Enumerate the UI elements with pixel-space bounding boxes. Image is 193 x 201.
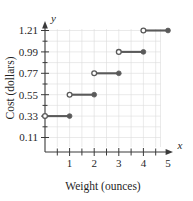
- step-open-endpoint: [92, 71, 97, 76]
- x-tick-label: 1: [67, 157, 73, 169]
- grid-lines: [45, 29, 161, 147]
- step-open-endpoint: [67, 92, 72, 97]
- y-tick-labels: 0.11 0.33 0.55 0.77 0.99 1.21: [19, 24, 39, 143]
- x-axis-variable-name: x: [177, 139, 183, 151]
- y-tick-label: 0.11: [19, 131, 38, 143]
- step-function-chart: 0.11 0.33 0.55 0.77 0.99 1.21 1 2 3 4 5 …: [0, 0, 193, 201]
- y-axis-arrow-icon: [42, 21, 48, 28]
- y-tick-label: 0.55: [19, 89, 39, 101]
- x-tick-label: 4: [141, 157, 147, 169]
- step-closed-endpoint: [67, 114, 72, 119]
- y-tick-label: 0.77: [19, 67, 39, 79]
- x-tick-label: 2: [91, 157, 97, 169]
- step-closed-endpoint: [166, 28, 171, 33]
- x-tick-labels: 1 2 3 4 5: [67, 157, 171, 169]
- x-tick-label: 3: [116, 157, 122, 169]
- step-closed-endpoint: [141, 50, 146, 55]
- step-open-endpoint: [141, 28, 146, 33]
- y-axis-variable-name: y: [50, 12, 56, 24]
- x-axis-title: Weight (ounces): [65, 180, 141, 193]
- y-tick-label: 0.33: [19, 110, 39, 122]
- chart-canvas: 0.11 0.33 0.55 0.77 0.99 1.21 1 2 3 4 5 …: [0, 0, 193, 201]
- step-closed-endpoint: [116, 71, 121, 76]
- y-tick-label: 0.99: [19, 46, 39, 58]
- x-tick-label: 5: [165, 157, 171, 169]
- y-tick-label: 1.21: [19, 24, 38, 36]
- step-open-endpoint: [43, 114, 48, 119]
- step-closed-endpoint: [92, 92, 97, 97]
- y-axis-title: Cost (dollars): [4, 56, 17, 119]
- x-axis-arrow-icon: [166, 149, 173, 155]
- step-open-endpoint: [116, 50, 121, 55]
